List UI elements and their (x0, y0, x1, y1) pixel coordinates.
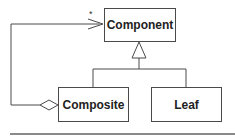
class-component: Component (104, 8, 176, 42)
uml-composite-diagram: * Component Composite Leaf (0, 0, 235, 136)
generalization-triangle-icon (132, 42, 146, 58)
class-name: Leaf (174, 98, 199, 112)
multiplicity-label: * (89, 9, 93, 19)
class-name: Component (107, 18, 174, 32)
aggregation-diamond-icon (40, 100, 58, 110)
bottom-rule (10, 133, 235, 135)
class-leaf: Leaf (151, 87, 222, 122)
class-composite: Composite (58, 87, 129, 122)
class-name: Composite (62, 98, 124, 112)
